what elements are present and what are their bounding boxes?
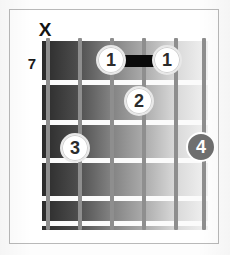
page-canvas: 11234 X 7	[0, 0, 230, 255]
fret-line-2	[42, 120, 208, 125]
finger-1-string-5: 1	[152, 45, 182, 75]
string-1	[46, 38, 50, 230]
fret-line-0	[42, 38, 208, 41]
muted-string-marker-icon: X	[34, 19, 56, 41]
finger-number-label: 4	[188, 134, 214, 160]
finger-2-string-4: 2	[124, 86, 154, 116]
fret-line-4	[42, 196, 208, 201]
finger-3-string-2: 3	[60, 133, 90, 163]
finger-1-string-3: 1	[96, 45, 126, 75]
finger-number-label: 3	[62, 135, 88, 161]
fret-line-1	[42, 80, 208, 85]
finger-number-label: 1	[154, 47, 180, 73]
finger-4-string-6: 4	[186, 132, 216, 162]
fret-line-5	[42, 221, 208, 226]
fret-number-label: 7	[18, 54, 36, 74]
chord-diagram: 11234 X 7	[0, 0, 230, 255]
finger-number-label: 1	[98, 47, 124, 73]
finger-number-label: 2	[126, 88, 152, 114]
